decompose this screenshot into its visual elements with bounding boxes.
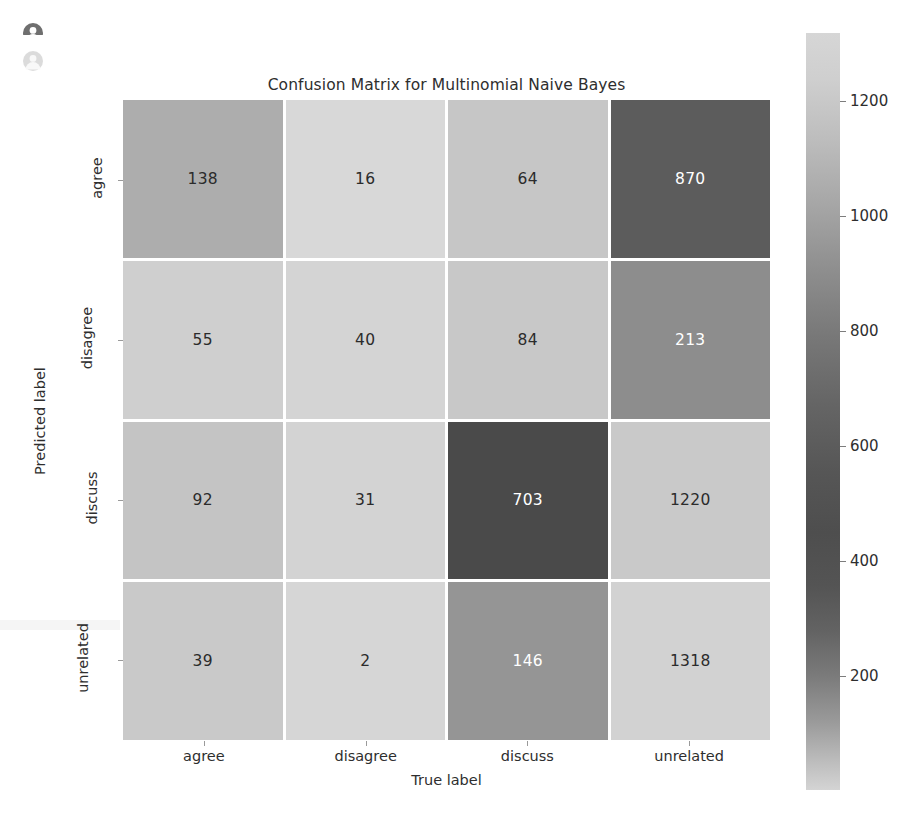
heatmap-cell-value: 31	[355, 491, 375, 509]
heatmap-cell-value: 146	[513, 652, 544, 670]
x-tick-label: agree	[124, 748, 284, 764]
heatmap-cell-value: 1318	[670, 652, 711, 670]
heatmap-cell: 1318	[611, 582, 771, 740]
y-tick-mark	[118, 340, 123, 341]
x-tick-mark	[366, 741, 367, 746]
heatmap-cell-value: 138	[188, 170, 219, 188]
colorbar-tick-mark	[840, 446, 846, 447]
y-tick-mark	[118, 500, 123, 501]
colorbar-tick-mark	[840, 676, 846, 677]
y-tick-label: unrelated	[0, 650, 118, 666]
heatmap-cell: 16	[286, 100, 446, 258]
heatmap-cell: 31	[286, 422, 446, 580]
x-tick-label: discuss	[447, 748, 607, 764]
heatmap-cell: 146	[448, 582, 608, 740]
heatmap-cell-value: 55	[193, 331, 213, 349]
heatmap-cell-value: 870	[675, 170, 706, 188]
y-tick-label: discuss	[0, 490, 118, 506]
heatmap-cell: 870	[611, 100, 771, 258]
colorbar-tick-mark	[840, 216, 846, 217]
colorbar: 12001000800600400200	[806, 33, 840, 790]
y-tick-mark	[118, 660, 123, 661]
heatmap-cell-value: 40	[355, 331, 375, 349]
heatmap-cell-value: 92	[193, 491, 213, 509]
heatmap-cell: 39	[123, 582, 283, 740]
colorbar-tick-label: 400	[850, 552, 879, 570]
y-tick-mark	[118, 180, 123, 181]
heatmap-cell: 84	[448, 261, 608, 419]
x-tick-mark	[689, 741, 690, 746]
y-tick-label: agree	[0, 170, 118, 186]
heatmap-cell-value: 1220	[670, 491, 711, 509]
heatmap-cell: 2	[286, 582, 446, 740]
chart-title: Confusion Matrix for Multinomial Naive B…	[123, 76, 770, 94]
colorbar-tick-label: 1000	[850, 207, 888, 225]
colorbar-tick-mark	[840, 561, 846, 562]
x-tick-mark	[527, 741, 528, 746]
colorbar-tick-mark	[840, 101, 846, 102]
scan-artifact	[0, 620, 120, 630]
x-axis-label: True label	[123, 772, 770, 788]
colorbar-gradient	[806, 33, 840, 790]
heatmap-cell-value: 213	[675, 331, 706, 349]
heatmap-cell: 92	[123, 422, 283, 580]
heatmap-grid: 1381664870554084213923170312203921461318	[123, 100, 770, 740]
confusion-matrix-figure: Confusion Matrix for Multinomial Naive B…	[0, 0, 916, 838]
heatmap-cell-value: 84	[518, 331, 538, 349]
heatmap-cell: 40	[286, 261, 446, 419]
colorbar-tick-mark	[840, 331, 846, 332]
heatmap-cell-value: 39	[193, 652, 213, 670]
heatmap-cell-value: 2	[360, 652, 370, 670]
colorbar-tick-label: 800	[850, 322, 879, 340]
x-tick-mark	[204, 741, 205, 746]
heatmap-cell-value: 703	[513, 491, 544, 509]
heatmap-cell: 1220	[611, 422, 771, 580]
colorbar-tick-label: 1200	[850, 92, 888, 110]
heatmap-cell: 55	[123, 261, 283, 419]
x-tick-label: unrelated	[609, 748, 769, 764]
heatmap-cell: 138	[123, 100, 283, 258]
y-tick-label: disagree	[0, 330, 118, 346]
heatmap-cell: 703	[448, 422, 608, 580]
heatmap-cell: 64	[448, 100, 608, 258]
y-axis-label: Predicted label	[32, 101, 48, 741]
colorbar-tick-label: 600	[850, 437, 879, 455]
colorbar-tick-label: 200	[850, 667, 879, 685]
x-tick-label: disagree	[286, 748, 446, 764]
heatmap-cell: 213	[611, 261, 771, 419]
heatmap-cell-value: 16	[355, 170, 375, 188]
heatmap-cell-value: 64	[518, 170, 538, 188]
